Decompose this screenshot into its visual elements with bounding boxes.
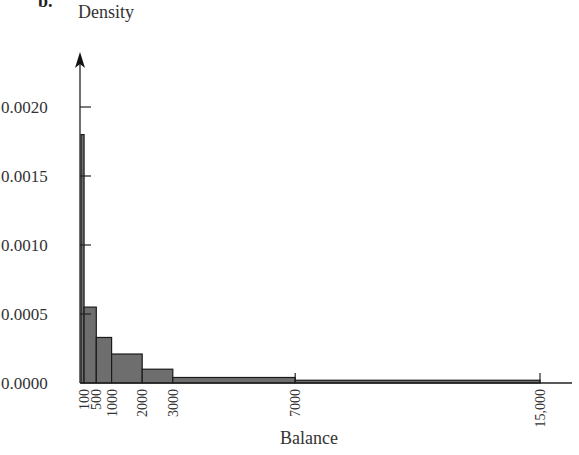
histogram-bar [173, 377, 295, 383]
histogram-bar [142, 369, 173, 383]
histogram-bar [96, 337, 111, 383]
y-tick-label: 0.0020 [1, 98, 48, 117]
y-axis-ticks: 0.00000.00050.00100.00150.0020 [1, 98, 91, 393]
y-tick-label: 0.0000 [1, 374, 48, 393]
histogram-chart: 0.00000.00050.00100.00150.0020 100500100… [0, 0, 579, 455]
x-tick-label: 2000 [135, 389, 150, 417]
x-tick-label: 1000 [105, 389, 120, 417]
y-tick-label: 0.0005 [1, 305, 48, 324]
histogram-bar [84, 307, 96, 383]
axes [75, 52, 572, 383]
y-tick-label: 0.0010 [1, 236, 48, 255]
histogram-bar [112, 354, 143, 383]
x-tick-label: 7000 [288, 389, 303, 417]
x-tick-label: 3000 [166, 389, 181, 417]
y-axis-title: Density [78, 2, 134, 22]
x-tick-label: 500 [89, 389, 104, 410]
y-tick-label: 0.0015 [1, 167, 48, 186]
x-axis-title: Balance [280, 428, 338, 448]
x-tick-label: 15,000 [533, 389, 548, 428]
histogram-bars [81, 135, 540, 383]
